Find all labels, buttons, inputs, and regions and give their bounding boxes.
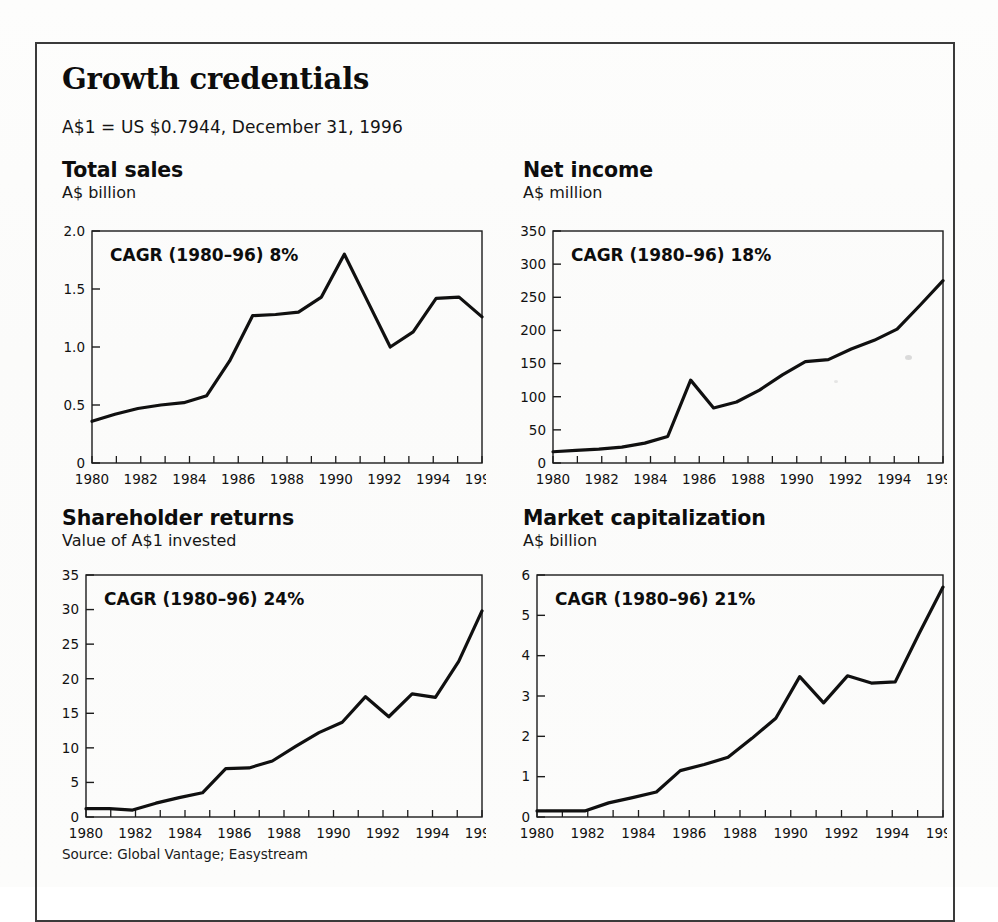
svg-text:1990: 1990 <box>316 825 350 841</box>
svg-text:1.5: 1.5 <box>64 281 85 297</box>
svg-text:1988: 1988 <box>267 825 301 841</box>
svg-text:150: 150 <box>520 355 546 371</box>
svg-text:1984: 1984 <box>633 471 667 487</box>
chart-total-sales: 00.51.01.52.0198019821984198619881990199… <box>46 222 486 487</box>
chart-shareholder-returns: 0510152025303519801982198419861988199019… <box>46 566 486 841</box>
svg-text:2: 2 <box>521 728 530 744</box>
svg-text:1996: 1996 <box>465 471 486 487</box>
svg-text:4: 4 <box>521 647 530 663</box>
chart-market-capitalization: 0123456198019821984198619881990199219941… <box>507 566 947 841</box>
svg-text:15: 15 <box>62 705 79 721</box>
svg-text:1996: 1996 <box>926 471 947 487</box>
panel-title-shareholder-returns: Shareholder returns <box>62 508 294 530</box>
svg-text:1990: 1990 <box>774 825 808 841</box>
svg-text:300: 300 <box>520 256 546 272</box>
svg-text:1982: 1982 <box>571 825 605 841</box>
svg-text:1.0: 1.0 <box>64 339 85 355</box>
cagr-annotation: CAGR (1980–96) 18% <box>571 245 771 265</box>
svg-text:1990: 1990 <box>319 471 353 487</box>
svg-text:1994: 1994 <box>416 471 450 487</box>
svg-text:1984: 1984 <box>621 825 655 841</box>
svg-text:2.0: 2.0 <box>64 223 85 239</box>
scan-speck <box>834 380 838 383</box>
svg-text:0.5: 0.5 <box>64 397 85 413</box>
panel-title-total-sales: Total sales <box>62 160 183 182</box>
panel-subtitle-total-sales: A$ billion <box>62 184 183 202</box>
svg-text:0: 0 <box>537 455 546 471</box>
svg-text:1992: 1992 <box>824 825 858 841</box>
svg-text:25: 25 <box>62 636 79 652</box>
panel-total-sales: Total sales A$ billion <box>62 160 183 201</box>
svg-text:1982: 1982 <box>124 471 158 487</box>
svg-text:1994: 1994 <box>877 471 911 487</box>
panel-subtitle-market-capitalization: A$ billion <box>523 532 766 550</box>
svg-text:20: 20 <box>62 671 79 687</box>
svg-text:1986: 1986 <box>221 471 255 487</box>
svg-text:30: 30 <box>62 601 79 617</box>
svg-text:1980: 1980 <box>75 471 109 487</box>
svg-text:1986: 1986 <box>682 471 716 487</box>
svg-text:1980: 1980 <box>520 825 554 841</box>
svg-text:1992: 1992 <box>367 471 401 487</box>
panel-market-capitalization: Market capitalization A$ billion <box>523 508 766 549</box>
svg-text:1990: 1990 <box>780 471 814 487</box>
svg-text:1992: 1992 <box>366 825 400 841</box>
chart-net-income-svg: 0501001502002503003501980198219841986198… <box>507 222 947 487</box>
panel-title-net-income: Net income <box>523 160 653 182</box>
panel-subtitle-net-income: A$ million <box>523 184 653 202</box>
svg-text:1988: 1988 <box>723 825 757 841</box>
panel-subtitle-shareholder-returns: Value of A$1 invested <box>62 532 294 550</box>
svg-text:0: 0 <box>70 809 79 825</box>
chart-net-income: 0501001502002503003501980198219841986198… <box>507 222 947 487</box>
svg-text:1996: 1996 <box>465 825 486 841</box>
cagr-annotation: CAGR (1980–96) 8% <box>110 245 298 265</box>
data-series-line <box>553 281 943 452</box>
svg-text:1984: 1984 <box>168 825 202 841</box>
svg-text:1: 1 <box>521 768 530 784</box>
svg-text:0: 0 <box>76 455 85 471</box>
panel-shareholder-returns: Shareholder returns Value of A$1 investe… <box>62 508 294 549</box>
svg-text:1996: 1996 <box>926 825 947 841</box>
cagr-annotation: CAGR (1980–96) 21% <box>555 589 755 609</box>
data-series-line <box>92 254 482 421</box>
svg-text:100: 100 <box>520 389 546 405</box>
svg-text:1982: 1982 <box>118 825 152 841</box>
svg-text:3: 3 <box>521 688 530 704</box>
source-note: Source: Global Vantage; Easystream <box>62 846 308 862</box>
svg-text:0: 0 <box>521 809 530 825</box>
exchange-rate-note: A$1 = US $0.7944, December 31, 1996 <box>62 117 403 137</box>
chart-shareholder-returns-svg: 0510152025303519801982198419861988199019… <box>46 566 486 841</box>
data-series-line <box>86 611 482 810</box>
svg-text:5: 5 <box>70 774 79 790</box>
svg-text:1980: 1980 <box>536 471 570 487</box>
svg-text:1980: 1980 <box>69 825 103 841</box>
panel-title-market-capitalization: Market capitalization <box>523 508 766 530</box>
svg-text:1986: 1986 <box>217 825 251 841</box>
svg-text:200: 200 <box>520 322 546 338</box>
chart-total-sales-svg: 00.51.01.52.0198019821984198619881990199… <box>46 222 486 487</box>
svg-text:5: 5 <box>521 607 530 623</box>
chart-market-capitalization-svg: 0123456198019821984198619881990199219941… <box>507 566 947 841</box>
svg-text:1994: 1994 <box>415 825 449 841</box>
svg-text:1994: 1994 <box>875 825 909 841</box>
svg-text:10: 10 <box>62 740 79 756</box>
svg-text:1988: 1988 <box>270 471 304 487</box>
svg-text:350: 350 <box>520 223 546 239</box>
svg-text:1988: 1988 <box>731 471 765 487</box>
svg-text:1984: 1984 <box>172 471 206 487</box>
page-title: Growth credentials <box>62 62 369 96</box>
svg-text:1992: 1992 <box>828 471 862 487</box>
data-series-line <box>537 587 943 811</box>
svg-text:250: 250 <box>520 289 546 305</box>
svg-text:50: 50 <box>529 422 546 438</box>
scan-speck <box>905 355 912 360</box>
cagr-annotation: CAGR (1980–96) 24% <box>104 589 304 609</box>
svg-text:1982: 1982 <box>585 471 619 487</box>
svg-text:6: 6 <box>521 567 530 583</box>
svg-text:1986: 1986 <box>672 825 706 841</box>
svg-text:35: 35 <box>62 567 79 583</box>
panel-net-income: Net income A$ million <box>523 160 653 201</box>
